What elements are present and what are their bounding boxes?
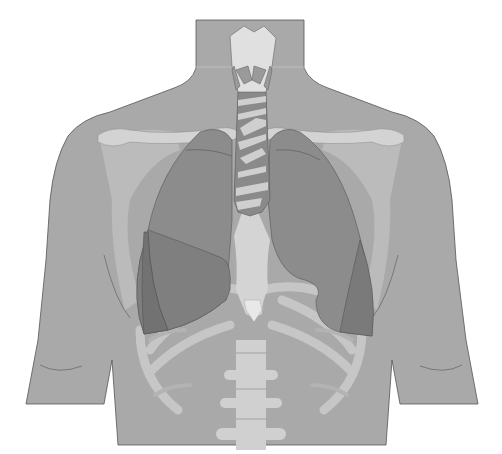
trachea (234, 90, 270, 216)
larynx (230, 26, 276, 92)
chest-anatomy-figure (0, 0, 502, 454)
anatomy-illustration (0, 0, 502, 454)
